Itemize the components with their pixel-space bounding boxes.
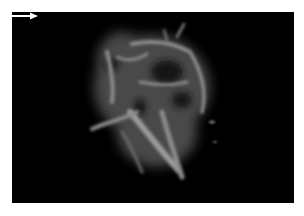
ultrasound-image	[12, 12, 294, 203]
arrow-right-icon	[12, 12, 38, 20]
vascular-rendering	[12, 12, 294, 203]
